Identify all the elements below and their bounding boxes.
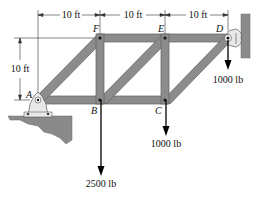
truss-diagram: 10 ft 10 ft 10 ft 10 ft	[0, 0, 254, 198]
load-label-c: 1000 lb	[151, 138, 181, 149]
node-label-d: D	[215, 23, 224, 34]
node-label-b: B	[91, 105, 97, 116]
dim-span-3: 10 ft	[189, 9, 208, 20]
ground-block	[8, 116, 72, 144]
truss-members	[35, 34, 231, 104]
dim-height: 10 ft	[11, 63, 30, 74]
node-label-e: E	[157, 23, 164, 34]
node-label-c: C	[155, 105, 162, 116]
load-label-b: 2500 lb	[86, 178, 116, 189]
node-label-a: A	[25, 89, 33, 100]
dim-span-2: 10 ft	[124, 9, 143, 20]
load-label-d: 1000 lb	[213, 74, 243, 85]
dim-span-1: 10 ft	[62, 9, 81, 20]
wall	[241, 14, 250, 58]
node-label-f: F	[92, 23, 100, 34]
